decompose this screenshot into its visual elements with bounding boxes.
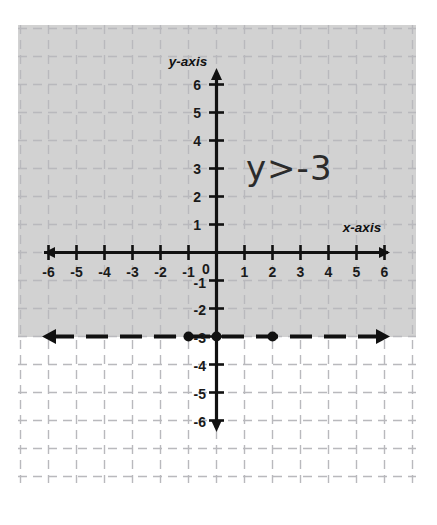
coordinate-plane-svg: y-axis x-axis 0 -6 -5 -4 -3 -2 -1 1 2 3 … [0, 0, 437, 525]
x-axis-label: x-axis [342, 220, 382, 235]
plot-point-2 [268, 332, 278, 342]
inequality-annotation: y>-3 [246, 148, 333, 188]
x-tick-label: 3 [297, 264, 305, 280]
graph-figure: y-axis x-axis 0 -6 -5 -4 -3 -2 -1 1 2 3 … [0, 0, 437, 525]
x-tick-label: 4 [325, 264, 333, 280]
y-tick-label: 3 [193, 161, 201, 177]
y-tick-label: 1 [193, 217, 201, 233]
plot-point-neg1 [184, 332, 194, 342]
plot-point-origin-x [212, 332, 222, 342]
x-tick-label: 2 [269, 264, 277, 280]
x-tick-label: -5 [70, 264, 83, 280]
x-tick-label: 1 [241, 264, 249, 280]
y-tick-label: -5 [194, 386, 207, 402]
y-axis-label: y-axis [168, 54, 208, 69]
y-tick-label: -3 [194, 330, 207, 346]
y-tick-label: -4 [194, 358, 207, 374]
y-tick-label: 2 [193, 189, 201, 205]
x-tick-label: -3 [126, 264, 139, 280]
y-tick-label: -1 [194, 275, 207, 291]
y-tick-label: -2 [194, 302, 207, 318]
x-tick-label: 5 [353, 264, 361, 280]
x-tick-label: -4 [98, 264, 111, 280]
x-tick-label: 6 [381, 264, 389, 280]
y-tick-label: 6 [193, 77, 201, 93]
y-tick-label: 5 [193, 105, 201, 121]
x-tick-label: -2 [154, 264, 167, 280]
y-tick-label: 4 [193, 133, 201, 149]
y-tick-label: -6 [194, 414, 207, 430]
x-tick-label: -6 [42, 264, 55, 280]
